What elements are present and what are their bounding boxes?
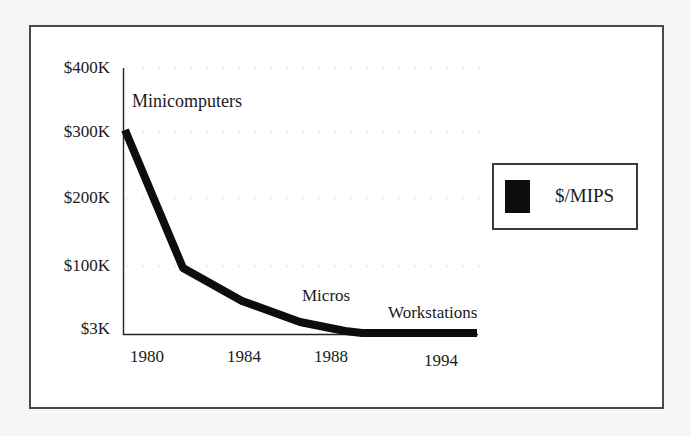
y-tick-label: $400K	[20, 59, 110, 76]
x-tick-label: 1980	[117, 348, 177, 365]
y-tick-label: $200K	[20, 189, 110, 206]
x-tick-label: 1988	[301, 348, 361, 365]
legend: $/MIPS	[492, 163, 638, 230]
annotation-workstations: Workstations	[388, 304, 477, 321]
y-tick-label: $100K	[20, 257, 110, 274]
y-tick-label: $300K	[20, 123, 110, 140]
y-tick-label: $3K	[20, 320, 110, 337]
annotation-micros: Micros	[302, 287, 350, 304]
x-tick-label: 1984	[214, 348, 274, 365]
x-tick-label: 1994	[411, 352, 471, 369]
annotation-minicomputers: Minicomputers	[132, 92, 242, 110]
legend-swatch	[505, 180, 530, 213]
legend-label: $/MIPS	[555, 185, 614, 207]
